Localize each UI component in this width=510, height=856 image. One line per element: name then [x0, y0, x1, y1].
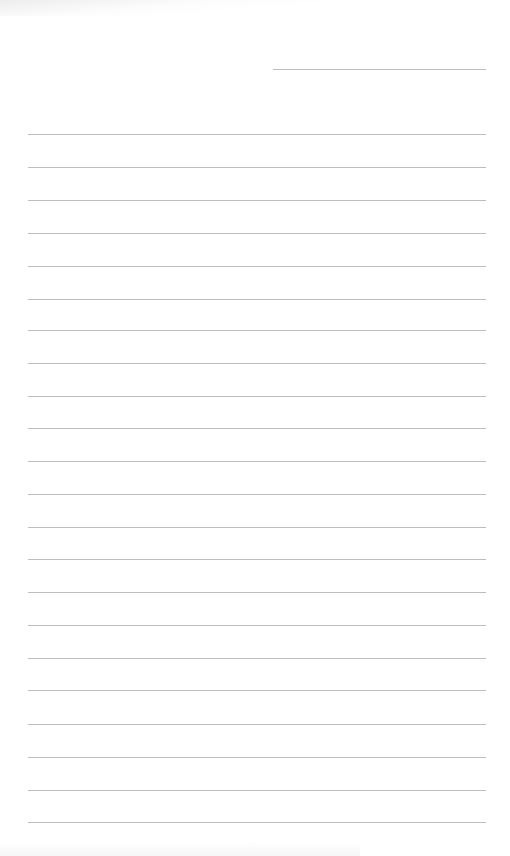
ruled-line: [28, 200, 486, 201]
paper-texture: [0, 842, 360, 856]
ruled-line: [28, 559, 486, 560]
ruled-line: [28, 494, 486, 495]
ruled-line: [28, 690, 486, 691]
ruled-line: [28, 527, 486, 528]
ruled-line: [28, 757, 486, 758]
ruled-line: [28, 461, 486, 462]
ruled-line: [28, 625, 486, 626]
ruled-line: [28, 167, 486, 168]
ruled-line: [28, 396, 486, 397]
lined-paper-page: [0, 0, 510, 856]
ruled-line: [28, 134, 486, 135]
ruled-line: [28, 428, 486, 429]
ruled-line: [28, 658, 486, 659]
ruled-line: [28, 330, 486, 331]
ruled-line: [28, 724, 486, 725]
ruled-line: [28, 266, 486, 267]
ruled-line: [28, 790, 486, 791]
ruled-line: [28, 233, 486, 234]
date-line: [273, 69, 486, 70]
page-edge-shadow: [0, 0, 340, 16]
ruled-line: [28, 822, 486, 823]
ruled-line: [28, 363, 486, 364]
ruled-line: [28, 299, 486, 300]
ruled-line: [28, 592, 486, 593]
